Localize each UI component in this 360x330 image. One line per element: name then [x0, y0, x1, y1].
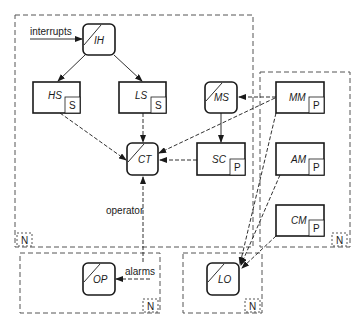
node-cm-label: CM — [291, 215, 307, 226]
node-sc[interactable]: SC P — [197, 143, 245, 175]
node-mm-label: MM — [289, 92, 306, 103]
node-ih-label: IH — [94, 35, 105, 46]
node-am-label: AM — [290, 154, 307, 165]
node-ct-label: CT — [138, 154, 152, 165]
node-ls-tag: S — [155, 100, 162, 111]
edge-hs-ct — [60, 113, 126, 160]
edge-cm-lo — [242, 236, 276, 268]
node-op-label: OP — [93, 274, 108, 285]
edge-ih-ls — [114, 55, 142, 81]
node-ms-label: MS — [214, 92, 229, 103]
label-alarms: alarms — [125, 266, 155, 277]
node-ls[interactable]: LS S — [119, 82, 166, 113]
node-ls-label: LS — [135, 90, 148, 101]
node-mm[interactable]: MM P — [276, 82, 324, 113]
node-ih[interactable]: IH — [83, 24, 115, 55]
node-cm[interactable]: CM P — [276, 205, 324, 236]
node-lo-label: LO — [218, 274, 232, 285]
group-op-tag: N — [147, 301, 154, 312]
edge-am-lo — [241, 175, 280, 265]
node-hs-tag: S — [69, 100, 76, 111]
edge-ih-hs — [58, 55, 85, 81]
node-sc-label: SC — [212, 154, 227, 165]
node-am[interactable]: AM P — [276, 143, 324, 175]
node-sc-tag: P — [234, 162, 241, 173]
diagram-canvas: N N N N — [0, 0, 360, 330]
node-lo[interactable]: LO — [207, 263, 239, 295]
node-op[interactable]: OP — [83, 263, 115, 295]
node-hs[interactable]: HS S — [33, 82, 80, 113]
label-interrupts: interrupts — [30, 26, 72, 37]
node-mm-tag: P — [313, 100, 320, 111]
node-hs-label: HS — [48, 90, 62, 101]
node-cm-tag: P — [313, 223, 320, 234]
label-operator: operator — [106, 205, 144, 216]
group-main-tag: N — [21, 235, 28, 246]
group-lo-tag: N — [249, 301, 256, 312]
node-am-tag: P — [313, 162, 320, 173]
group-right-tag: N — [336, 235, 343, 246]
node-ms[interactable]: MS — [205, 82, 237, 113]
node-ct[interactable]: CT — [127, 143, 158, 175]
